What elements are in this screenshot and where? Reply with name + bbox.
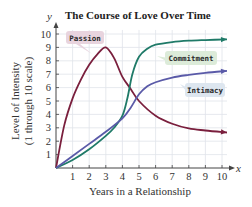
y-tick-label: 4 xyxy=(46,109,52,120)
y-tick-label: 5 xyxy=(46,96,51,107)
x-tick-label: 5 xyxy=(136,171,141,182)
x-tick-label: 9 xyxy=(203,171,208,182)
x-axis-label: Years in a Relationship xyxy=(89,185,191,197)
grid-lines xyxy=(56,30,227,168)
y-tick-label: 7 xyxy=(46,69,51,80)
x-axis-variable: x xyxy=(235,162,241,174)
y-tick-label: 6 xyxy=(46,82,51,93)
x-axis-arrow-icon xyxy=(229,166,235,171)
x-tick-label: 1 xyxy=(70,171,75,182)
x-tick-label: 8 xyxy=(186,171,191,182)
y-tick-label: 3 xyxy=(46,122,51,133)
x-tick-label: 4 xyxy=(120,171,126,182)
y-axis-variable: y xyxy=(46,10,52,22)
intimacy-label: Intimacy xyxy=(187,86,224,95)
x-tick-label: 7 xyxy=(170,171,175,182)
y-tick-label: 8 xyxy=(46,55,51,66)
x-tick-label: 10 xyxy=(217,171,228,182)
y-axis-label-line2: (1 through 10 scale) xyxy=(22,57,35,146)
y-tick-label: 1 xyxy=(46,149,51,160)
y-axis-label-line1: Level of Intensity xyxy=(9,61,21,140)
x-tick-label: 6 xyxy=(153,171,158,182)
chart-title: The Course of Love Over Time xyxy=(65,9,211,21)
y-tick-label: 9 xyxy=(46,42,51,53)
passion-label: Passion xyxy=(69,34,101,43)
y-axis-arrow-icon xyxy=(54,22,59,28)
x-tick-label: 2 xyxy=(87,171,92,182)
x-tick-label: 3 xyxy=(103,171,108,182)
y-tick-label: 2 xyxy=(46,136,51,147)
commitment-label: Commitment xyxy=(168,54,213,63)
y-tick-label: 10 xyxy=(41,29,52,40)
commitment-arrow-icon xyxy=(221,37,227,42)
love-over-time-chart: 1234567891012345678910 PassionCommitment… xyxy=(0,0,252,207)
